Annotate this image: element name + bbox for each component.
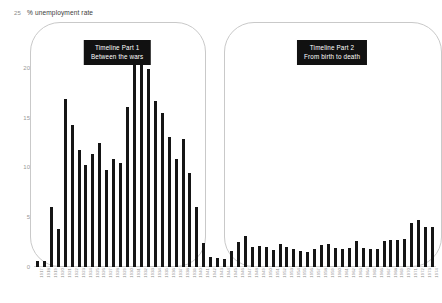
bar-1948 — [251, 247, 254, 267]
x-axis-label-1926: 1926 — [101, 268, 106, 278]
bar-1936 — [168, 137, 171, 267]
bar-1965 — [369, 249, 372, 267]
x-axis-label-1920: 1920 — [60, 268, 65, 278]
x-axis-label-1933: 1933 — [150, 268, 155, 278]
x-axis-label-1936: 1936 — [171, 268, 176, 278]
x-axis-label-1922: 1922 — [74, 268, 79, 278]
bar-1942 — [209, 257, 212, 267]
bar-1947 — [244, 236, 247, 267]
x-axis-label-1959: 1959 — [330, 268, 335, 278]
bar-1938 — [182, 139, 185, 267]
x-axis-label-1947: 1947 — [247, 268, 252, 278]
bar-1955 — [299, 251, 302, 267]
bar-1923 — [78, 150, 81, 267]
y-axis-tick-5: 5 — [27, 214, 30, 220]
x-axis-label-1944: 1944 — [226, 268, 231, 278]
x-axis-label-1968: 1968 — [393, 268, 398, 278]
x-axis-label-1945: 1945 — [233, 268, 238, 278]
x-axis-label-1961: 1961 — [344, 268, 349, 278]
bar-1949 — [258, 246, 261, 267]
bar-1918 — [43, 261, 46, 267]
x-axis-label-1940: 1940 — [198, 268, 203, 278]
bar-1945 — [230, 251, 233, 267]
bar-1963 — [355, 241, 358, 267]
bar-1939 — [188, 173, 191, 267]
x-axis-label-1917: 1917 — [39, 268, 44, 278]
x-axis-label-1950: 1950 — [268, 268, 273, 278]
x-axis-label-1969: 1969 — [399, 268, 404, 278]
bar-1956 — [306, 252, 309, 267]
y-axis-tick-0: 0 — [27, 264, 30, 270]
x-axis-label-1960: 1960 — [337, 268, 342, 278]
bar-1926 — [98, 143, 101, 268]
bar-1917 — [36, 261, 39, 267]
x-axis-label-1939: 1939 — [192, 268, 197, 278]
bar-1967 — [383, 241, 386, 267]
bar-1962 — [348, 248, 351, 267]
x-axis-label-1966: 1966 — [379, 268, 384, 278]
x-axis-label-1972: 1972 — [420, 268, 425, 278]
callout-title-1: Timeline Part 1 — [91, 43, 143, 52]
bar-1934 — [154, 101, 157, 267]
bar-1943 — [216, 258, 219, 267]
bar-1950 — [265, 247, 268, 267]
bar-1958 — [320, 245, 323, 267]
x-axis-label-1919: 1919 — [53, 268, 58, 278]
x-axis-label-1935: 1935 — [164, 268, 169, 278]
x-axis-label-1953: 1953 — [289, 268, 294, 278]
y-axis-tick-15: 15 — [23, 115, 30, 121]
x-axis-label-1941: 1941 — [205, 268, 210, 278]
x-axis-label-1938: 1938 — [185, 268, 190, 278]
x-axis-label-1942: 1942 — [212, 268, 217, 278]
bar-1946 — [237, 242, 240, 267]
bar-1941 — [202, 243, 205, 267]
x-axis-label-1948: 1948 — [254, 268, 259, 278]
bar-1954 — [292, 249, 295, 267]
x-axis-label-1951: 1951 — [275, 268, 280, 278]
x-axis-label-1934: 1934 — [157, 268, 162, 278]
x-axis-label-1974: 1974 — [434, 268, 439, 278]
bar-1952 — [279, 244, 282, 267]
x-axis-label-1956: 1956 — [309, 268, 314, 278]
callout-title-2: Timeline Part 2 — [304, 43, 360, 52]
x-axis-label-1931: 1931 — [136, 268, 141, 278]
x-axis-label-1930: 1930 — [129, 268, 134, 278]
bar-1929 — [119, 163, 122, 267]
bar-1935 — [161, 113, 164, 267]
x-axis-label-1949: 1949 — [261, 268, 266, 278]
axis-title-row: 25 % unemployment rate — [14, 9, 93, 16]
x-axis-label-1957: 1957 — [316, 268, 321, 278]
bar-1970 — [403, 239, 406, 267]
x-axis-label-1925: 1925 — [95, 268, 100, 278]
x-axis-label-1955: 1955 — [302, 268, 307, 278]
bar-1930 — [126, 107, 129, 267]
bar-1937 — [175, 159, 178, 267]
x-axis-label-1924: 1924 — [88, 268, 93, 278]
plot-area: 05101520 Timeline Part 1Between the wars… — [34, 18, 436, 267]
chart-canvas: 25 % unemployment rate 05101520 Timeline… — [0, 0, 442, 303]
x-axis-label-1954: 1954 — [296, 268, 301, 278]
x-axis-label-1932: 1932 — [143, 268, 148, 278]
y-axis-top-tick: 25 — [14, 10, 21, 16]
bar-1968 — [389, 240, 392, 267]
bar-1931 — [133, 55, 136, 267]
callout-label-2: Timeline Part 2From birth to death — [297, 40, 367, 65]
x-axis-labels: 1917191819191920192119221923192419251926… — [34, 268, 436, 303]
bar-1953 — [285, 247, 288, 267]
x-axis-label-1964: 1964 — [365, 268, 370, 278]
bar-1920 — [57, 229, 60, 267]
x-axis-label-1970: 1970 — [406, 268, 411, 278]
bar-1944 — [223, 259, 226, 267]
x-axis-label-1927: 1927 — [108, 268, 113, 278]
y-axis-tick-20: 20 — [23, 65, 30, 71]
bar-1921 — [64, 99, 67, 267]
bar-1919 — [50, 207, 53, 267]
bar-1960 — [334, 248, 337, 267]
bar-1972 — [417, 220, 420, 267]
x-axis-label-1923: 1923 — [81, 268, 86, 278]
bar-1964 — [362, 248, 365, 267]
x-axis-label-1971: 1971 — [413, 268, 418, 278]
callout-subtitle-1: Between the wars — [91, 52, 143, 61]
bar-1959 — [327, 244, 330, 267]
bar-1969 — [396, 240, 399, 267]
